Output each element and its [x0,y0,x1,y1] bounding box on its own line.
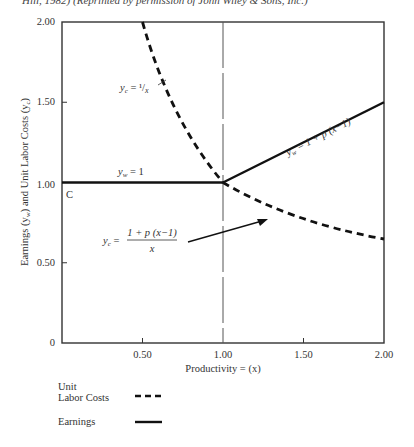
legend-item-earnings: Earnings [58,416,95,427]
point-c-label: C [66,189,73,200]
annotation-yc-inverse: yc = ¹/x [119,82,149,95]
annotation-yw-equals-1: yw = 1 [117,166,144,179]
y-axis-title: Earnings (yw) and Unit Labor Costs (yc) [19,98,32,267]
chart: 2.00 1.50 1.00 0.50 0 0.50 1.00 1.50 2.0… [0,0,414,447]
x-tick-label: 0.50 [133,349,151,360]
x-tick-label: 1.00 [214,349,232,360]
y-tick-label: 0.50 [37,257,55,268]
y-tick-label: 2.00 [37,16,55,27]
y-tick-label: 1.50 [37,96,55,107]
annotation-yc-fraction: yc = 1 + p (x−1) x [102,227,177,254]
legend-item-unit-labor-costs: Unit Labor Costs [58,381,109,403]
x-axis-title: Productivity = (x) [185,363,261,375]
legend-label: Earnings [58,416,95,427]
legend-label: Unit [58,381,109,392]
arrow-head-icon [257,219,268,226]
annotation-yw-linear: yw = 1 + p (x−1) [283,115,354,160]
y-tick-label: 0 [50,337,55,348]
x-tick-label: 2.00 [375,349,393,360]
ulc-curve-inverse [143,22,224,183]
annotation-arrow [188,221,262,242]
y-tick-label: 1.00 [37,179,55,190]
ulc-curve-fractional [223,183,384,240]
x-tick-label: 1.50 [294,349,312,360]
svg-text:1 + p (x−1): 1 + p (x−1) [127,227,177,239]
svg-text:yc =: yc = [102,235,119,248]
svg-text:x: x [149,243,155,254]
legend-label: Labor Costs [58,392,109,403]
